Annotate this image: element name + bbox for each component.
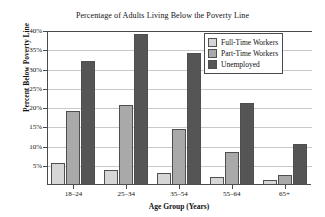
legend-swatch-icon xyxy=(208,60,217,69)
x-tick-mark xyxy=(126,185,127,189)
x-tick-mark xyxy=(232,185,233,189)
x-axis-title: Age Group (Years) xyxy=(47,202,311,211)
bar xyxy=(119,105,133,185)
bar-group xyxy=(104,31,148,185)
x-tick-label: 35–54 xyxy=(149,190,209,198)
bar xyxy=(134,34,148,185)
y-tick-label: 10% xyxy=(2,143,42,151)
bar xyxy=(210,177,224,185)
legend-item: Unemployed xyxy=(208,59,278,70)
y-tick-label: 15% xyxy=(2,123,42,131)
bar xyxy=(104,170,118,185)
chart-legend: Full-Time WorkersPart-Time WorkersUnempl… xyxy=(204,33,283,74)
x-tick-mark xyxy=(179,185,180,189)
bar xyxy=(293,144,307,185)
legend-label: Unemployed xyxy=(221,59,260,70)
bar xyxy=(51,163,65,185)
legend-swatch-icon xyxy=(208,49,217,58)
y-tick-label: 25% xyxy=(2,85,42,93)
y-tick-label: 40% xyxy=(2,27,42,35)
bar xyxy=(157,173,171,185)
legend-item: Full-Time Workers xyxy=(208,37,278,48)
poverty-bar-chart: Percentage of Adults Living Below the Po… xyxy=(0,0,325,217)
y-tick-label: 35% xyxy=(2,46,42,54)
y-tick-label: 5% xyxy=(2,162,42,170)
bar xyxy=(172,129,186,185)
x-tick-label: 55–64 xyxy=(202,190,262,198)
x-tick-label: 18–24 xyxy=(43,190,103,198)
legend-item: Part-Time Workers xyxy=(208,48,278,59)
y-tick-label: 30% xyxy=(2,66,42,74)
legend-label: Full-Time Workers xyxy=(221,37,278,48)
x-tick-label: 65+ xyxy=(255,190,315,198)
bar xyxy=(263,180,277,185)
chart-title: Percentage of Adults Living Below the Po… xyxy=(0,11,325,20)
legend-label: Part-Time Workers xyxy=(221,48,278,59)
y-tick-label: 20% xyxy=(2,104,42,112)
bar-group xyxy=(157,31,201,185)
bar xyxy=(66,111,80,185)
bar xyxy=(278,175,292,185)
x-tick-mark xyxy=(73,185,74,189)
bar-group xyxy=(51,31,95,185)
bar xyxy=(225,152,239,185)
bar xyxy=(187,53,201,185)
bar xyxy=(81,61,95,185)
x-tick-mark xyxy=(285,185,286,189)
legend-swatch-icon xyxy=(208,38,217,47)
x-tick-label: 25–34 xyxy=(96,190,156,198)
bar xyxy=(240,103,254,185)
